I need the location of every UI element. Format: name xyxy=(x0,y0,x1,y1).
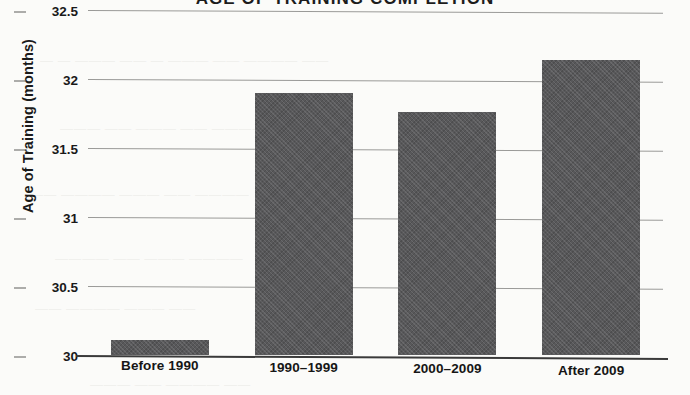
y-axis-tick-mark xyxy=(14,287,26,288)
y-axis-tick-label: 32 xyxy=(26,73,78,88)
y-axis-tick-label: 31.5 xyxy=(26,142,78,157)
y-axis-tick-label: 31 xyxy=(26,211,78,226)
bar xyxy=(111,340,209,355)
y-axis-tick-mark xyxy=(14,11,26,12)
plot-area xyxy=(88,10,663,355)
y-axis-tick-mark xyxy=(14,80,26,81)
x-axis-tick-label: 2000–2009 xyxy=(376,361,520,376)
y-axis-tick-label: 32.5 xyxy=(26,4,78,19)
x-axis-tick-label: After 2009 xyxy=(519,363,663,378)
x-axis-tick-label: 1990–1999 xyxy=(232,360,376,375)
bar xyxy=(542,60,640,355)
x-axis-tick-labels: Before 19901990–19992000–2009After 2009 xyxy=(88,358,663,384)
y-axis-tick-mark xyxy=(14,149,26,150)
y-axis-tick-mark xyxy=(14,218,26,219)
bar xyxy=(398,112,496,355)
chart-page: — — ——— —— — ——— —— ———— —— ——— —— ——— —… xyxy=(0,0,690,395)
y-axis-tick-labels: 32.53231.53130.530 xyxy=(20,10,78,355)
chart-title: AGE OF TRAINING COMPLETION xyxy=(0,0,690,9)
y-axis-tick-mark xyxy=(14,356,26,357)
gridline xyxy=(88,10,663,14)
y-axis-tick-label: 30 xyxy=(26,349,78,364)
bar xyxy=(255,93,353,355)
x-axis-tick-label: Before 1990 xyxy=(88,358,232,373)
y-axis-tick-label: 30.5 xyxy=(26,280,78,295)
